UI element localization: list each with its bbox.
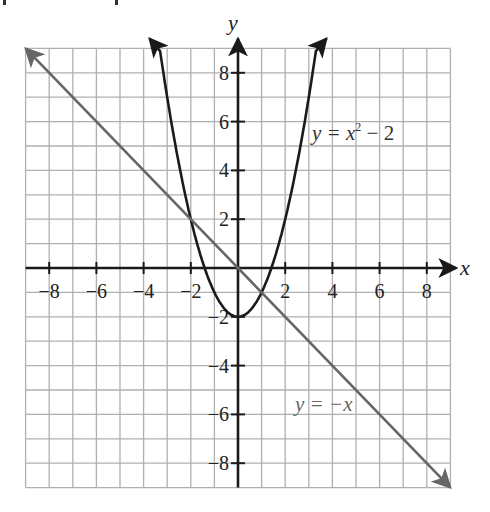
line-label: y = −x (293, 392, 353, 416)
x-axis-label: x (459, 255, 470, 280)
y-tick-label: 2 (219, 208, 229, 230)
x-tick-label: 2 (280, 280, 290, 302)
x-tick-label: 4 (327, 280, 337, 302)
y-tick-label: 8 (219, 62, 229, 84)
x-tick-label: 6 (375, 280, 385, 302)
x-tick-label: −8 (39, 280, 60, 302)
y-tick-label: 4 (219, 159, 229, 181)
x-tick-label: −6 (86, 280, 107, 302)
cut-text-fragment (3, 0, 6, 5)
parabola-label-base: y = x (310, 121, 356, 145)
x-tick-label: 8 (422, 280, 432, 302)
coordinate-plane-chart: −8−6−4−22468−8−6−4−22468 x y y = x2 − 2 … (0, 0, 490, 512)
y-tick-label: 6 (219, 111, 229, 133)
y-tick-label: −8 (208, 452, 229, 474)
y-axis-label: y (226, 10, 238, 35)
parabola-label: y = x2 − 2 (310, 120, 394, 145)
cut-text-fragment (115, 0, 118, 5)
y-tick-label: −6 (208, 403, 229, 425)
axes (26, 38, 457, 487)
x-tick-label: −2 (180, 280, 201, 302)
x-tick-label: −4 (133, 280, 154, 302)
y-tick-label: −4 (208, 355, 229, 377)
parabola-label-suffix: − 2 (361, 121, 394, 145)
